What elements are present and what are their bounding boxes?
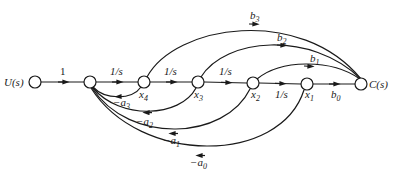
gain-a2-label: −a2 (136, 115, 153, 130)
node-x3 (192, 76, 204, 88)
gain-a0-label: −a0 (190, 156, 207, 171)
node-c (355, 78, 367, 90)
gain-a1-label: −a1 (163, 134, 180, 149)
gain-n1-x4-label: 1/s (110, 65, 123, 77)
gain-x3-x2-label: 1/s (219, 65, 232, 77)
node-n1 (84, 76, 96, 88)
state-x2-label: x2 (250, 88, 260, 103)
gain-b1-label: b1 (310, 52, 320, 67)
edge-a1 (92, 88, 250, 129)
edge-b3 (147, 31, 361, 79)
input-label: U(s) (4, 76, 24, 89)
state-x4-label: x4 (138, 88, 148, 103)
labels: U(s) C(s) 1 1/s 1/s 1/s 1/s b0 b1 b2 b3 … (4, 9, 388, 171)
node-u (29, 76, 41, 88)
signal-flow-graph: U(s) C(s) 1 1/s 1/s 1/s 1/s b0 b1 b2 b3 … (0, 0, 394, 180)
gain-b3-label: b3 (250, 9, 260, 24)
gain-b0-label: b0 (331, 88, 341, 103)
output-label: C(s) (369, 78, 388, 91)
gain-1-label: 1 (60, 65, 66, 77)
state-x3-label: x3 (193, 88, 203, 103)
gain-x2-x1-label: 1/s (275, 88, 288, 100)
state-x1-label: x1 (304, 88, 314, 103)
gain-a3-label: −a3 (113, 96, 130, 111)
gain-b2-label: b2 (277, 31, 287, 46)
node-x4 (138, 76, 150, 88)
gain-x4-x3-label: 1/s (164, 65, 177, 77)
output-edges (147, 24, 361, 79)
